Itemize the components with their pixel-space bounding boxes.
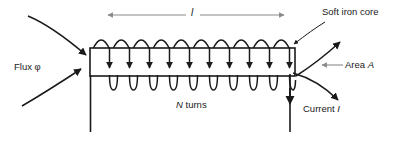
coil-bottom-arcs [110,75,296,90]
flux-arrow-upper [28,16,86,55]
area-pointer-arrow [296,42,340,76]
label-current: Current I [303,104,340,114]
label-current-symbol: I [337,103,340,114]
label-area-prefix: Area [345,59,368,70]
label-n-turns: N turns [176,100,207,110]
flux-arrow-lower [22,69,81,106]
label-turns-word: turns [183,99,207,110]
solenoid-diagram [0,0,407,144]
diagram-canvas: l Flux φ Soft iron core Area A N turns C… [0,0,407,144]
label-area-symbol: A [368,59,374,70]
soft-iron-core-leader [294,22,325,44]
label-length: l [191,8,193,18]
soft-iron-core-rect [90,48,295,76]
label-n-symbol: N [176,99,183,110]
label-current-prefix: Current [303,103,337,114]
label-flux: Flux φ [14,62,41,72]
label-area: Area A [345,60,374,70]
current-leader-arrow [293,73,338,100]
label-soft-iron-core: Soft iron core [322,7,379,17]
